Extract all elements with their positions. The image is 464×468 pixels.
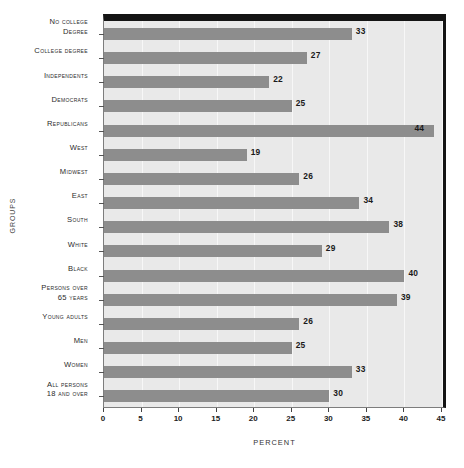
category-label: West	[0, 143, 96, 153]
bar-row: 29	[104, 239, 442, 263]
x-tick-mark	[291, 408, 292, 412]
bar-row: 19	[104, 143, 442, 167]
bar-row: 40	[104, 264, 442, 288]
category-label: Midwest	[0, 167, 96, 177]
bar[interactable]	[104, 342, 292, 354]
bar-value-label: 27	[311, 50, 321, 60]
bar-value-label: 44	[414, 123, 424, 133]
bar[interactable]	[104, 390, 329, 402]
bar[interactable]	[104, 221, 389, 233]
bar-value-label: 33	[356, 26, 366, 36]
bar-chart: Groups No collegedegreeCollege degreeInd…	[0, 0, 464, 468]
category-label: East	[0, 191, 96, 201]
y-tick-mark	[99, 82, 104, 83]
y-tick-mark	[99, 348, 104, 349]
bar-row: 25	[104, 336, 442, 360]
bar-value-label: 30	[333, 388, 343, 398]
bar-value-label: 25	[296, 98, 306, 108]
bar-row: 44	[104, 119, 442, 143]
y-tick-mark	[99, 372, 104, 373]
bar[interactable]	[104, 52, 307, 64]
bar[interactable]	[104, 173, 299, 185]
x-tick-mark	[141, 408, 142, 412]
bar-row: 34	[104, 191, 442, 215]
x-tick-label: 30	[324, 414, 333, 423]
x-tick-mark	[366, 408, 367, 412]
category-label: Men	[0, 336, 96, 346]
bar[interactable]	[104, 366, 352, 378]
gridline	[442, 21, 443, 407]
bar-value-label: 29	[326, 243, 336, 253]
bar-value-label: 26	[303, 171, 313, 181]
x-tick-mark	[178, 408, 179, 412]
x-tick-mark	[103, 408, 104, 412]
x-tick-label: 15	[211, 414, 220, 423]
bar-value-label: 25	[296, 340, 306, 350]
category-label: Persons over65 years	[0, 283, 96, 302]
bar-row: 33	[104, 360, 442, 384]
x-tick-mark	[441, 408, 442, 412]
x-tick-mark	[253, 408, 254, 412]
y-tick-mark	[99, 251, 104, 252]
bar[interactable]	[104, 76, 269, 88]
bar[interactable]	[104, 270, 404, 282]
category-label: South	[0, 215, 96, 225]
y-tick-mark	[99, 179, 104, 180]
bar-value-label: 33	[356, 364, 366, 374]
category-label: Black	[0, 264, 96, 274]
y-tick-mark	[99, 203, 104, 204]
x-axis: 051015202530354045	[103, 408, 446, 428]
x-tick-label: 40	[399, 414, 408, 423]
y-tick-mark	[99, 34, 104, 35]
bar[interactable]	[104, 245, 322, 257]
bar-value-label: 34	[363, 195, 373, 205]
x-axis-title: Percent	[103, 438, 446, 447]
bar-value-label: 38	[393, 219, 403, 229]
y-tick-mark	[99, 106, 104, 107]
bar-row: 38	[104, 215, 442, 239]
category-label: Women	[0, 360, 96, 370]
category-label: Democrats	[0, 95, 96, 105]
category-label-column: No collegedegreeCollege degreeIndependen…	[0, 14, 96, 408]
bar-value-label: 19	[251, 147, 261, 157]
category-label: Independents	[0, 71, 96, 81]
y-tick-mark	[99, 155, 104, 156]
bar-row: 27	[104, 46, 442, 70]
y-tick-mark	[99, 58, 104, 59]
bar-row: 26	[104, 167, 442, 191]
bar-row: 25	[104, 94, 442, 118]
x-tick-label: 45	[437, 414, 446, 423]
x-tick-label: 0	[101, 414, 105, 423]
bar[interactable]	[104, 125, 434, 137]
plot-inner: 33272225441926343829403926253330	[104, 21, 442, 407]
category-label: Republicans	[0, 119, 96, 129]
x-tick-mark	[328, 408, 329, 412]
category-label: No collegedegree	[0, 17, 96, 36]
y-tick-mark	[99, 396, 104, 397]
bar-value-label: 26	[303, 316, 313, 326]
x-tick-mark	[403, 408, 404, 412]
bar[interactable]	[104, 294, 397, 306]
x-tick-label: 5	[138, 414, 142, 423]
bar[interactable]	[104, 318, 299, 330]
bar[interactable]	[104, 149, 247, 161]
y-tick-mark	[99, 276, 104, 277]
category-label: White	[0, 240, 96, 250]
bar-row: 33	[104, 22, 442, 46]
bar-row: 39	[104, 288, 442, 312]
category-label: Young adults	[0, 312, 96, 322]
x-tick-label: 35	[361, 414, 370, 423]
category-label: College degree	[0, 46, 96, 56]
y-tick-mark	[99, 227, 104, 228]
bar[interactable]	[104, 197, 359, 209]
bar-value-label: 40	[408, 268, 418, 278]
bar-value-label: 22	[273, 74, 283, 84]
x-tick-mark	[216, 408, 217, 412]
bar-row: 26	[104, 312, 442, 336]
plot-area: 33272225441926343829403926253330	[103, 14, 446, 408]
bar-value-label: 39	[401, 292, 411, 302]
bar[interactable]	[104, 100, 292, 112]
x-tick-label: 20	[249, 414, 258, 423]
bar[interactable]	[104, 28, 352, 40]
bar-row: 22	[104, 70, 442, 94]
